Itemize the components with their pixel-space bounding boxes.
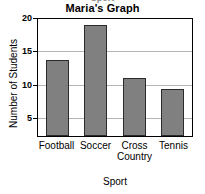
x-tick-label-soccer: Soccer xyxy=(76,140,115,162)
x-tick-label-cross-country-line2: Country xyxy=(115,151,154,162)
x-axis-title: Sport xyxy=(37,176,193,187)
x-tick-label-tennis: Tennis xyxy=(154,140,193,162)
x-tick-label-cross-country: Cross Country xyxy=(115,140,154,162)
x-tick-label-soccer-line1: Soccer xyxy=(80,140,111,151)
bar-chart-screenshot: Sport Maria's Graph Number of Students 2… xyxy=(0,0,205,194)
bar-football xyxy=(46,60,69,136)
x-tick-label-cross-country-line1: Cross xyxy=(121,140,147,151)
y-axis-tick-labels: 20 15 10 5 xyxy=(10,0,32,194)
y-tick-label-10: 10 xyxy=(10,81,32,90)
x-axis-tick-labels: Football Soccer Cross Country Tennis xyxy=(37,140,193,162)
y-tick-label-5: 5 xyxy=(10,114,32,123)
bar-cross-country xyxy=(123,78,146,137)
x-tick-label-tennis-line1: Tennis xyxy=(159,140,188,151)
bar-soccer xyxy=(84,25,107,136)
plot-area xyxy=(37,18,193,137)
y-tick-label-15: 15 xyxy=(10,47,32,56)
x-tick-label-football-line1: Football xyxy=(39,140,75,151)
bar-tennis xyxy=(161,89,184,136)
x-tick-label-football: Football xyxy=(37,140,76,162)
bar-series xyxy=(38,19,192,136)
y-tick-label-20: 20 xyxy=(10,14,32,23)
